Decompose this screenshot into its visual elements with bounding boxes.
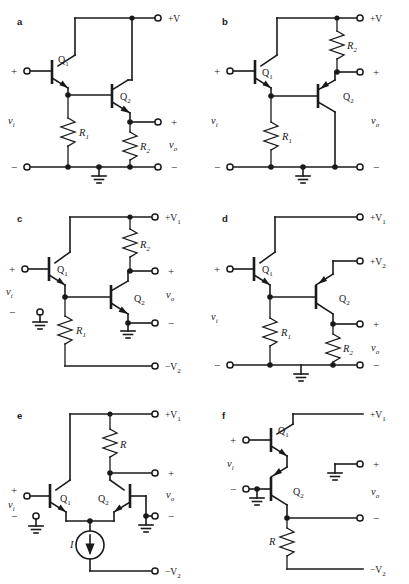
node-a-bot-r1 bbox=[65, 164, 71, 170]
node-b-bot-emitter bbox=[332, 164, 338, 170]
panel-a-q2-emitter-arrow bbox=[121, 106, 131, 113]
ground-icon-c-right bbox=[121, 323, 135, 338]
terminal-b-output-plus[interactable] bbox=[357, 69, 363, 75]
panel-a-rail-top-label: +V bbox=[168, 14, 180, 24]
terminal-b-input-minus[interactable] bbox=[227, 164, 233, 170]
panel-d: d +V1 + Q1 +V2 Q2 + bbox=[205, 190, 409, 385]
node-b-bot-r1 bbox=[268, 164, 274, 170]
terminal-d-output-plus[interactable] bbox=[357, 321, 363, 327]
terminal-c-input-plus[interactable] bbox=[22, 266, 28, 272]
terminal-e-vplus1[interactable] bbox=[152, 411, 158, 417]
panel-c-q2-emitter-arrow bbox=[119, 307, 129, 314]
panel-b: b +V + Q1 R2 + Q2 bbox=[205, 0, 409, 190]
panel-b-output-plus-sign: + bbox=[373, 66, 379, 78]
panel-e-r-label: R bbox=[119, 439, 127, 450]
terminal-a-output-plus[interactable] bbox=[155, 119, 161, 125]
terminal-f-input-minus[interactable] bbox=[243, 486, 249, 492]
panel-f-vo-label: vo bbox=[371, 486, 380, 500]
panel-b-r1-label: R1 bbox=[281, 131, 292, 145]
panel-e-rail-bottom-label: −V2 bbox=[165, 567, 181, 580]
panel-b-output-minus-sign: − bbox=[373, 161, 379, 173]
panel-c-rail-bottom-label: −V2 bbox=[165, 362, 181, 375]
terminal-d-input-minus[interactable] bbox=[227, 362, 233, 368]
panel-c-r1-label: R1 bbox=[75, 325, 86, 339]
panel-e-vo-label: vo bbox=[166, 489, 175, 503]
terminal-d-input-plus[interactable] bbox=[227, 266, 233, 272]
terminal-e-output-plus[interactable] bbox=[152, 470, 158, 476]
terminal-c-input-minus[interactable] bbox=[37, 309, 43, 315]
terminal-a-input-minus[interactable] bbox=[24, 164, 30, 170]
ground-icon-f-right bbox=[328, 464, 342, 480]
panel-d-vi-label: vi bbox=[211, 311, 218, 325]
panel-f-rail-top-label: +V1 bbox=[370, 410, 386, 423]
panel-d-rail-top-label: +V1 bbox=[370, 213, 386, 226]
panel-e-output-plus-sign: + bbox=[168, 467, 174, 479]
terminal-d-vplus1[interactable] bbox=[357, 214, 363, 220]
panel-a-output-minus-sign: − bbox=[171, 161, 177, 173]
panel-c-q2-label: Q2 bbox=[134, 293, 145, 307]
terminal-d-vplus2[interactable] bbox=[357, 258, 363, 264]
panel-a-q1-emitter-arrow bbox=[60, 81, 69, 89]
terminal-b-vplus[interactable] bbox=[357, 15, 363, 21]
panel-b-r2-label: R2 bbox=[346, 40, 357, 54]
panel-b-q1-emitter-arrow bbox=[263, 81, 272, 89]
panel-d-vo-label: vo bbox=[371, 342, 380, 356]
panel-e: e +V1 R + + Q1 Q2 bbox=[0, 385, 205, 584]
terminal-f-output-minus[interactable] bbox=[357, 515, 363, 521]
panel-c-rail-top-label: +V1 bbox=[165, 213, 181, 226]
terminal-f-output-plus[interactable] bbox=[357, 461, 363, 467]
panel-e-output-minus-sign: − bbox=[168, 510, 174, 522]
panel-b-vi-label: vi bbox=[211, 115, 218, 129]
panel-e-q1-emitter-arrow bbox=[58, 505, 67, 513]
panel-c: c +V1 + Q1 R2 + Q2 bbox=[0, 190, 205, 385]
terminal-e-output-minus[interactable] bbox=[152, 513, 158, 519]
panel-c-vi-label: vi bbox=[6, 286, 13, 300]
panel-b-input-plus-sign: + bbox=[214, 65, 220, 77]
terminal-e-input-plus[interactable] bbox=[24, 493, 30, 499]
panel-e-input-plus-sign: + bbox=[11, 484, 17, 496]
panel-c-q1-label: Q1 bbox=[57, 264, 68, 278]
panel-b-vo-label: vo bbox=[371, 115, 380, 129]
panel-f-r-label: R bbox=[268, 536, 276, 547]
panel-f-q2-label: Q2 bbox=[293, 486, 304, 500]
ground-icon-e-right bbox=[139, 516, 153, 532]
terminal-a-output-minus[interactable] bbox=[155, 164, 161, 170]
panel-b-q1-label: Q1 bbox=[262, 67, 273, 81]
panel-e-rail-top-label: +V1 bbox=[165, 410, 181, 423]
panel-e-q1-label: Q1 bbox=[60, 493, 71, 507]
current-source-icon-e bbox=[76, 521, 104, 571]
panel-c-input-minus-sign: − bbox=[9, 306, 15, 318]
terminal-a-vplus[interactable] bbox=[155, 15, 161, 21]
panel-d-input-plus-sign: + bbox=[214, 263, 220, 275]
panel-f-q1-emitter-arrow bbox=[279, 449, 288, 457]
terminal-c-vplus1[interactable] bbox=[152, 214, 158, 220]
terminal-c-output-plus[interactable] bbox=[152, 268, 158, 274]
panel-a-r2-label: R2 bbox=[139, 141, 150, 155]
panel-d-q2-label: Q2 bbox=[339, 293, 350, 307]
ground-icon-b bbox=[296, 167, 310, 183]
ground-icon-a bbox=[92, 167, 106, 183]
panel-f-output-plus-sign: + bbox=[373, 458, 379, 470]
terminal-a-input-plus[interactable] bbox=[24, 68, 30, 74]
terminal-d-output-minus[interactable] bbox=[357, 362, 363, 368]
panel-b-input-minus-sign: − bbox=[214, 161, 220, 173]
panel-d-rail-mid-label: +V2 bbox=[370, 257, 386, 270]
terminal-e-vminus2[interactable] bbox=[152, 568, 158, 574]
ground-icon-d bbox=[294, 365, 308, 381]
terminal-c-output-minus[interactable] bbox=[152, 320, 158, 326]
terminal-c-vminus2[interactable] bbox=[152, 363, 158, 369]
terminal-b-output-minus[interactable] bbox=[357, 164, 363, 170]
ground-icon-f-left bbox=[250, 489, 264, 505]
ground-icon-e-left bbox=[29, 519, 43, 533]
terminal-b-input-plus[interactable] bbox=[227, 68, 233, 74]
panel-c-letter: c bbox=[17, 213, 22, 224]
panel-d-input-minus-sign: − bbox=[214, 359, 220, 371]
panel-c-input-plus-sign: + bbox=[9, 263, 15, 275]
panel-b-rail-top-label: +V bbox=[370, 14, 382, 24]
panel-d-output-minus-sign: − bbox=[373, 359, 379, 371]
panel-c-output-minus-sign: − bbox=[168, 317, 174, 329]
terminal-e-input-minus[interactable] bbox=[33, 513, 39, 519]
panel-e-current-label: I bbox=[69, 539, 74, 550]
terminal-f-input-plus[interactable] bbox=[243, 437, 249, 443]
node-a-bot-r2 bbox=[127, 164, 133, 170]
